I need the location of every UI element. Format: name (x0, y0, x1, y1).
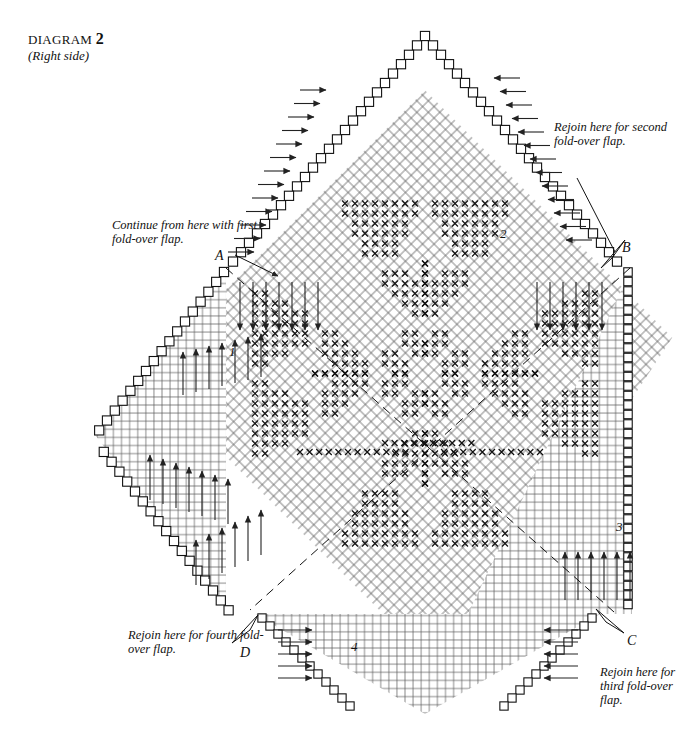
quadrant-4-label: 4 (351, 639, 358, 655)
quadrant-3-label: 3 (616, 519, 623, 535)
point-c-label: C (627, 633, 636, 649)
point-d-label: D (240, 645, 250, 661)
point-b-label: B (622, 240, 631, 256)
point-a-label: A (215, 248, 224, 264)
quadrant-2-label: 2 (500, 226, 507, 242)
note-second-flap: Rejoin here for second fold-over flap. (554, 120, 682, 148)
chart-grid (0, 0, 692, 749)
note-third-flap: Rejoin here for third fold-over flap. (600, 665, 692, 707)
quadrant-1-label: 1 (229, 344, 236, 360)
note-first-flap: Continue from here with first fold-over … (112, 218, 262, 246)
diagram-canvas: DIAGRAM 2 (Right side) (0, 0, 692, 749)
